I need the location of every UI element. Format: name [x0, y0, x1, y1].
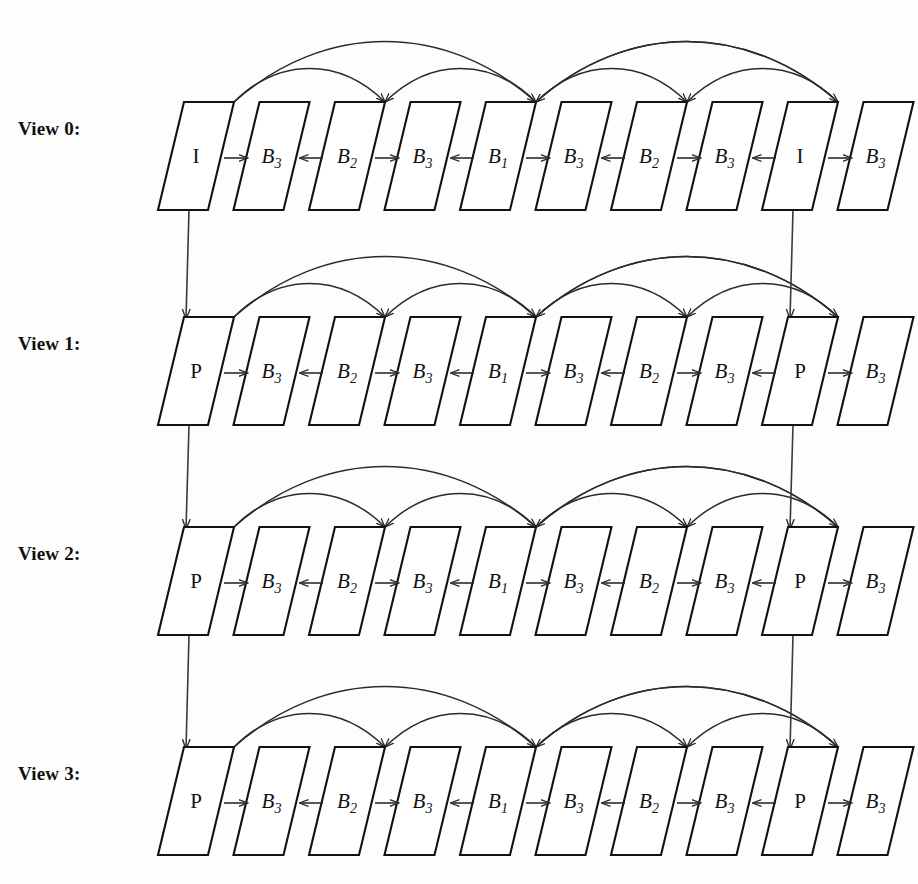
- reference-arc: [687, 493, 838, 527]
- diagram-canvas: View 0: View 1: View 2: View 3: IB3B2B3B…: [0, 0, 918, 884]
- reference-arc: [234, 687, 536, 747]
- frame-label: P: [190, 569, 202, 593]
- reference-arc: [536, 493, 687, 527]
- frames-group: [158, 102, 914, 855]
- reference-arc: [536, 687, 838, 747]
- frame-label: P: [190, 359, 202, 383]
- frame-label: P: [794, 359, 806, 383]
- inter-view-arrow: [186, 425, 189, 529]
- reference-arc: [385, 713, 536, 747]
- prediction-structure-svg: IB3B2B3B1B3B2B3IB3PB3B2B3B1B3B2B3PB3PB3B…: [0, 0, 918, 884]
- reference-arc: [687, 68, 838, 102]
- frame-label: P: [190, 789, 202, 813]
- reference-arc: [536, 467, 838, 527]
- reference-arc: [234, 68, 385, 102]
- inter-view-arrow: [186, 635, 189, 749]
- reference-arc: [385, 283, 536, 317]
- inter-view-arrow: [186, 210, 189, 319]
- reference-arc: [536, 257, 838, 317]
- frame-label: I: [193, 144, 200, 168]
- reference-arc: [536, 283, 687, 317]
- frame-label: P: [794, 569, 806, 593]
- reference-arc: [234, 42, 536, 102]
- inter-view-arrow: [790, 635, 793, 749]
- reference-arc: [536, 467, 838, 527]
- reference-arc: [385, 493, 536, 527]
- inter-view-arrows-group: [186, 210, 793, 749]
- frame-label: P: [794, 789, 806, 813]
- reference-arc: [385, 68, 536, 102]
- inter-view-arrow: [790, 210, 793, 319]
- reference-arc: [687, 283, 838, 317]
- frame-label: I: [797, 144, 804, 168]
- reference-arc: [234, 713, 385, 747]
- reference-arc: [536, 68, 687, 102]
- horizontal-arrows-group: [224, 158, 852, 803]
- reference-arc: [687, 713, 838, 747]
- reference-arc: [234, 493, 385, 527]
- inter-view-arrow: [790, 425, 793, 529]
- reference-arc: [234, 257, 536, 317]
- reference-arc: [536, 687, 838, 747]
- reference-arc: [536, 42, 838, 102]
- reference-arc: [536, 42, 838, 102]
- reference-arc: [536, 713, 687, 747]
- reference-arc: [234, 283, 385, 317]
- reference-arc: [234, 467, 536, 527]
- reference-arc: [536, 257, 838, 317]
